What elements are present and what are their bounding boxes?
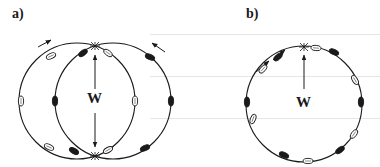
orbit-circle <box>19 43 135 159</box>
panel-b-force-label: W <box>296 94 311 111</box>
crossing-star-icon <box>299 43 309 51</box>
filled-marker <box>77 48 88 58</box>
rotation-arrow-icon <box>38 40 51 47</box>
panel-a-label: a) <box>12 6 24 22</box>
filled-marker <box>168 96 173 106</box>
filled-marker <box>52 96 57 106</box>
filled-marker <box>144 53 155 62</box>
filled-marker <box>328 48 339 57</box>
filled-marker <box>244 97 249 107</box>
filled-marker <box>278 151 289 160</box>
crossing-star-icon <box>90 42 100 50</box>
panel-a-force-label: W <box>87 90 102 107</box>
crossing-star-icon <box>90 152 100 160</box>
diagram-canvas <box>0 0 380 167</box>
rotation-arrow-icon <box>152 43 165 52</box>
filled-marker <box>139 144 150 153</box>
filled-marker <box>358 97 363 107</box>
filled-marker <box>334 145 345 155</box>
panel-b-label: b) <box>246 6 258 22</box>
filled-marker <box>272 52 283 62</box>
